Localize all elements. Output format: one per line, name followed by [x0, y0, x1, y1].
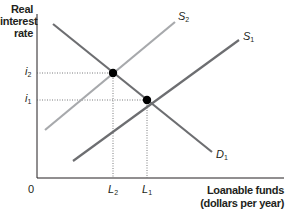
y-tick-i1-sub: 1 — [27, 98, 31, 105]
equilibrium-point-2 — [109, 69, 117, 77]
y-axis-label-line2: interest — [0, 15, 33, 27]
demand-curve-d1 — [53, 24, 212, 152]
x-tick-l2-sub: 2 — [114, 189, 118, 196]
curve-label-s2-sub: 2 — [185, 16, 189, 23]
y-tick-i2: i2 — [25, 65, 31, 78]
x-axis-label-line1: Loanable funds — [200, 184, 284, 197]
y-tick-i2-sub: 2 — [27, 71, 31, 78]
x-axis-label-line2: (dollars per year) — [200, 197, 284, 210]
curve-label-d1: D1 — [216, 148, 228, 161]
x-tick-l1: L1 — [142, 183, 152, 196]
supply-curve-s2 — [45, 22, 175, 130]
curve-label-d1-sub: 1 — [224, 154, 228, 161]
y-axis-label-line1: Real — [0, 3, 33, 15]
x-tick-l1-sub: 1 — [148, 189, 152, 196]
y-axis-label-line3: rate — [0, 27, 33, 39]
curve-label-s2: S2 — [178, 10, 189, 23]
origin-label: 0 — [28, 183, 34, 195]
y-axis-label: Real interest rate — [0, 3, 33, 39]
x-tick-l2: L2 — [108, 183, 118, 196]
x-axis-label: Loanable funds (dollars per year) — [200, 184, 284, 210]
curve-label-s1-sub: 1 — [250, 36, 254, 43]
equilibrium-point-1 — [143, 96, 151, 104]
y-tick-i1: i1 — [25, 92, 31, 105]
curve-label-d1-letter: D — [216, 148, 224, 160]
supply-curve-s1 — [73, 40, 239, 161]
curve-label-s1: S1 — [243, 30, 254, 43]
loanable-funds-chart: Real interest rate Loanable funds (dolla… — [0, 0, 292, 215]
